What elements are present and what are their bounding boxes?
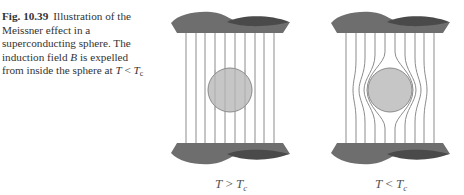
bottom-magnet-pole — [331, 143, 450, 164]
top-magnet-pole — [331, 12, 450, 33]
label-superconducting-state: T < Tc — [375, 176, 407, 192]
panel-superconducting-state — [331, 12, 450, 164]
label-normal-state: T > Tc — [215, 176, 247, 192]
meissner-diagram — [0, 0, 464, 195]
label-sub: c — [403, 183, 407, 193]
sphere-superconducting — [368, 68, 412, 112]
label-sub: c — [243, 183, 247, 193]
bottom-magnet-pole — [171, 143, 290, 164]
panel-normal-state — [171, 12, 290, 164]
label-op: < — [382, 176, 396, 191]
label-op: > — [222, 176, 236, 191]
top-magnet-pole — [171, 12, 290, 33]
